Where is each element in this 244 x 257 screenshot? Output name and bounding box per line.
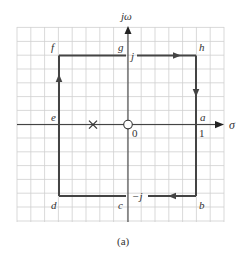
jw-axis-label: jω <box>121 11 132 22</box>
imag-top-label: j <box>131 51 134 62</box>
point-f-label: f <box>51 42 54 53</box>
origin-label: 0 <box>132 128 138 139</box>
imag-bottom-label: −j <box>132 191 142 202</box>
point-a-label: a <box>200 112 206 123</box>
point-h-label: h <box>199 42 205 53</box>
point-c-label: c <box>118 200 123 211</box>
point-d-label: d <box>51 200 57 211</box>
s-plane-diagram <box>0 0 244 257</box>
point-g-label: g <box>118 42 124 53</box>
sigma-axis-label: σ <box>229 119 235 131</box>
sigma-arrow-icon <box>215 121 224 128</box>
point-e-label: e <box>51 112 56 123</box>
arrow-down-icon <box>193 89 200 97</box>
unit-label: 1 <box>199 128 205 139</box>
figure-caption: (a) <box>117 236 129 247</box>
arrow-up-icon <box>56 74 63 82</box>
arrow-right-icon <box>173 52 181 59</box>
circle-icon <box>124 120 133 129</box>
point-b-label: b <box>199 200 205 211</box>
